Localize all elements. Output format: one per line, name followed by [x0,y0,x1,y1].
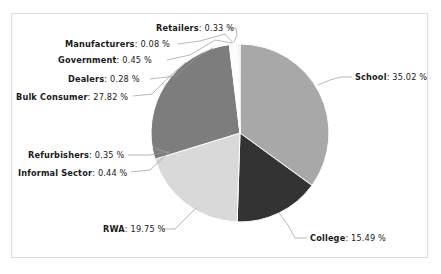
pie-label-informal-sector-name: Informal Sector [18,168,92,178]
pie-label-manufacturers-name: Manufacturers [65,39,135,49]
pie-slice-group [151,44,329,222]
pie-label-informal-sector-value: 0.44 % [98,168,128,178]
pie-label-dealers-value: 0.28 % [110,74,140,84]
pie-label-government-name: Government [58,55,117,65]
pie-label-dealers-name: Dealers [68,74,104,84]
pie-label-retailers: Retailers: 0.33 % [156,24,234,32]
pie-label-manufacturers-sep: : [135,39,138,49]
pie-label-dealers: Dealers: 0.28 % [68,75,140,83]
pie-label-bulk-consumer-value: 27.82 % [93,92,128,102]
leader-line-school [318,77,352,85]
pie-label-school: School: 35.02 % [355,73,427,81]
pie-label-college: College: 15.49 % [310,234,386,242]
pie-label-refurbishers-sep: : [89,150,92,160]
pie-label-refurbishers-value: 0.35 % [95,150,125,160]
pie-label-college-sep: : [345,233,348,243]
pie-label-manufacturers-value: 0.08 % [140,39,170,49]
pie-label-dealers-sep: : [104,74,107,84]
pie-label-retailers-sep: : [199,23,202,33]
pie-label-informal-sector-sep: : [92,168,95,178]
pie-label-college-name: College [310,233,345,243]
pie-label-rwa-name: RWA [103,224,125,234]
pie-label-refurbishers-name: Refurbishers [28,150,89,160]
pie-label-school-sep: : [387,72,390,82]
leader-line-manufacturers [178,34,233,44]
pie-label-government-value: 0.45 % [122,55,152,65]
pie-label-bulk-consumer-name: Bulk Consumer [16,92,88,102]
pie-label-informal-sector: Informal Sector: 0.44 % [18,169,127,177]
pie-label-rwa-value: 19.75 % [131,224,166,234]
pie-label-government: Government: 0.45 % [58,56,152,64]
pie-label-retailers-name: Retailers [156,23,199,33]
pie-label-bulk-consumer-sep: : [88,92,91,102]
pie-label-college-value: 15.49 % [351,233,386,243]
pie-label-bulk-consumer: Bulk Consumer: 27.82 % [16,93,128,101]
pie-label-manufacturers: Manufacturers: 0.08 % [65,40,170,48]
leader-line-college [279,213,307,238]
leader-line-rwa [162,208,196,229]
pie-chart-figure: Retailers: 0.33 % Manufacturers: 0.08 % … [0,0,441,274]
pie-label-school-value: 35.02 % [392,72,427,82]
pie-label-school-name: School [355,72,387,82]
pie-label-rwa: RWA: 19.75 % [103,225,166,233]
pie-label-refurbishers: Refurbishers: 0.35 % [28,151,124,159]
pie-label-rwa-sep: : [125,224,128,234]
pie-label-retailers-value: 0.33 % [205,23,235,33]
pie-label-government-sep: : [117,55,120,65]
